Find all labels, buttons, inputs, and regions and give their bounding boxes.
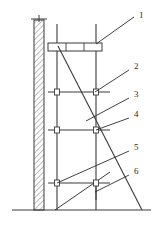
hatched-masonry-wall — [31, 15, 47, 210]
callout-leader-5 — [57, 151, 129, 183]
callout-label-6: 6 — [134, 166, 139, 176]
secondary-braces-group — [55, 172, 110, 210]
standard-posts-group — [57, 24, 96, 210]
coupler-node — [55, 89, 60, 95]
callout-leader-2 — [95, 70, 129, 92]
callout-leader-4 — [96, 118, 129, 130]
lower-diagonal-brace — [55, 172, 110, 210]
callout-6: 6 — [95, 166, 139, 192]
callout-leader-1 — [96, 17, 134, 44]
diagram-canvas: 123456 — [0, 0, 163, 229]
callout-leader-3 — [86, 98, 129, 121]
coupler-nodes-group — [55, 89, 99, 186]
callout-label-2: 2 — [134, 61, 139, 71]
coupler-node — [94, 180, 99, 186]
callouts-group: 123456 — [57, 10, 144, 192]
callout-5: 5 — [57, 142, 139, 183]
callout-2: 2 — [95, 61, 139, 92]
scaffold-elevation-diagram: 123456 — [0, 0, 163, 229]
working-platform — [48, 43, 102, 51]
callout-1: 1 — [96, 10, 144, 44]
coupler-node — [55, 127, 60, 133]
callout-label-3: 3 — [134, 89, 139, 99]
callout-label-5: 5 — [134, 142, 139, 152]
primary-diagonal-brace — [58, 46, 142, 210]
callout-label-1: 1 — [139, 10, 144, 20]
callout-label-4: 4 — [134, 109, 139, 119]
